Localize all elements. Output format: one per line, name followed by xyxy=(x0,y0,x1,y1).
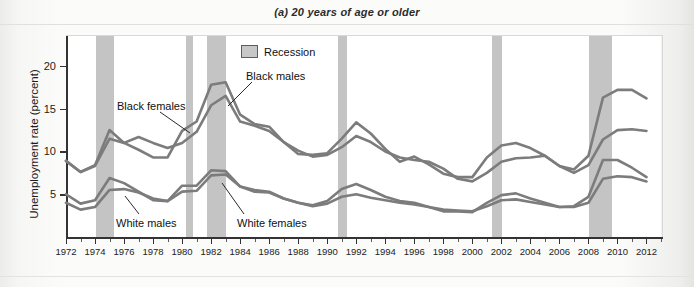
leader-white-males xyxy=(125,196,139,214)
series-label-white-males: White males xyxy=(116,217,177,229)
series-label-black-males: Black males xyxy=(246,70,305,82)
data-line-black-males xyxy=(66,82,646,177)
data-line-white-females xyxy=(66,175,646,212)
series-label-white-females: White females xyxy=(237,217,307,229)
series-lines-overlay xyxy=(0,0,694,287)
data-line-white-males xyxy=(66,160,646,212)
leader-black-females xyxy=(160,112,190,133)
series-label-black-females: Black females xyxy=(117,100,185,112)
unemployment-rate-chart: 1972197419761978198019821984198619881990… xyxy=(0,0,694,287)
